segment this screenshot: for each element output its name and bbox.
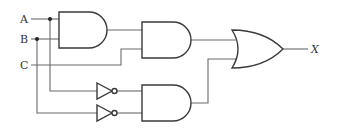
not-gate-2 [97, 105, 117, 121]
input-label-a: A [19, 13, 29, 26]
and-gate-3 [142, 85, 191, 121]
wire-and3-or [191, 59, 236, 103]
output-label-x: X [310, 43, 320, 56]
junction-b [35, 37, 39, 41]
junction-a [48, 17, 52, 21]
input-label-b: B [20, 33, 28, 46]
and-gate-1 [59, 12, 107, 48]
not-gate-1 [97, 83, 117, 99]
and-gate-2 [142, 22, 191, 58]
inversion-bubble-icon [112, 111, 117, 116]
wire-b-branch [37, 39, 97, 113]
input-label-c: C [20, 59, 28, 72]
wire-c [31, 49, 142, 65]
inversion-bubble-icon [112, 89, 117, 94]
logic-circuit-diagram: A B C [0, 0, 338, 135]
or-gate [232, 30, 283, 68]
